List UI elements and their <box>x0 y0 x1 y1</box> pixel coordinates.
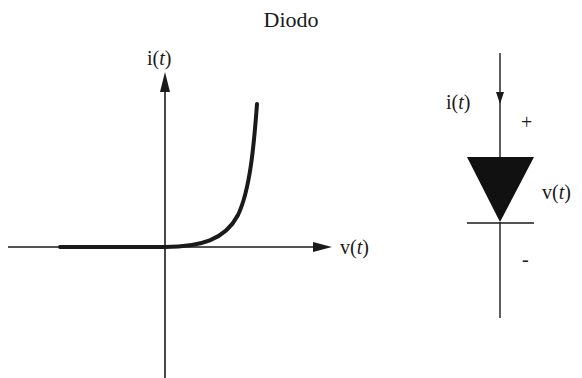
current-label: i(t) <box>446 91 470 114</box>
minus-sign: - <box>522 248 529 270</box>
diode-diagram: Diodo i(t) v(t) i(t) + v(t) - <box>0 0 582 378</box>
y-axis-arrow-icon <box>160 72 170 92</box>
diode-symbol: i(t) + v(t) - <box>446 53 571 318</box>
x-axis-label: v(t) <box>340 236 369 259</box>
y-axis-label: i(t) <box>147 47 171 70</box>
current-arrow-icon <box>496 92 504 104</box>
iv-characteristic-graph: i(t) v(t) <box>8 47 369 378</box>
diagram-title: Diodo <box>264 7 319 32</box>
diode-triangle-icon <box>467 157 534 222</box>
x-axis-arrow-icon <box>313 242 332 252</box>
diode-iv-curve <box>60 104 257 247</box>
voltage-label: v(t) <box>542 181 571 204</box>
plus-sign: + <box>521 111 532 133</box>
